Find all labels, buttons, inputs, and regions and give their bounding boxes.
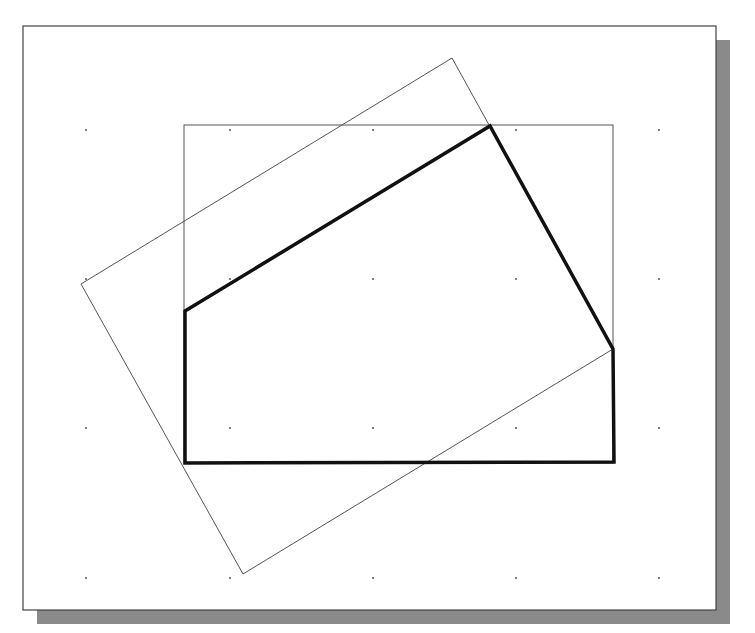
grid-dot (658, 129, 660, 131)
grid-dot (372, 577, 374, 579)
grid-dot (515, 577, 517, 579)
grid-dot (658, 577, 660, 579)
drawing-canvas (0, 0, 755, 633)
grid-dot (85, 577, 87, 579)
grid-dot (658, 427, 660, 429)
grid-dot (515, 278, 517, 280)
grid-dot (372, 129, 374, 131)
grid-dot (229, 577, 231, 579)
grid-dot (515, 129, 517, 131)
grid-dot (85, 278, 87, 280)
grid-dot (229, 427, 231, 429)
grid-dot (372, 427, 374, 429)
grid-dot (515, 427, 517, 429)
grid-dot (229, 129, 231, 131)
grid-dot (372, 278, 374, 280)
grid-dot (85, 427, 87, 429)
grid-dot (229, 278, 231, 280)
grid-dot (85, 129, 87, 131)
drawing-frame (23, 26, 716, 610)
grid-dot (658, 278, 660, 280)
